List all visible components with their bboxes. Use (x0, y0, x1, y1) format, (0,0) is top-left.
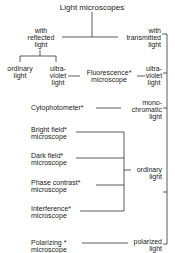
node-dark-field-microscope: Dark field* microscope (31, 152, 67, 166)
label-line: light (115, 41, 161, 48)
title: Light microscopes (52, 4, 132, 12)
node-bright-field-microscope: Bright field* microscope (31, 126, 67, 140)
label-line: reflected (24, 34, 58, 41)
label-line: ultra- (144, 65, 164, 72)
label-line: microscope (31, 159, 67, 166)
label-line: ultra- (48, 65, 68, 72)
label-line: microscope (31, 246, 67, 253)
node-phase-contrast-microscope: Phase contrast* microscope (31, 179, 80, 193)
label-line: light (120, 113, 162, 120)
node-monochromatic-light: mono- chromatic light (120, 99, 162, 120)
label-line: microscope (31, 186, 80, 193)
label-line: Interference* (31, 205, 71, 212)
label-line: Fluorescence* (80, 69, 138, 76)
label-line: Bright field* (31, 126, 67, 133)
label-line: light (144, 79, 164, 86)
label-line: violet (144, 72, 164, 79)
node-with-reflected-light: with reflected light (24, 27, 58, 48)
node-reflected-ordinary-light: ordinary light (2, 65, 38, 79)
node-polarized-light: polarized light (126, 238, 162, 252)
label-line: with (24, 27, 58, 34)
label-line: light (2, 72, 38, 79)
label-line: chromatic (120, 106, 162, 113)
label-line: light (126, 245, 162, 252)
node-interference-microscope: Interference* microscope (31, 205, 71, 219)
label-line: ordinary (2, 65, 38, 72)
label-line: light (24, 41, 58, 48)
label-line: microscope (31, 212, 71, 219)
node-polarizing-microscope: Polarizing * microscope (31, 239, 67, 253)
label-line: mono- (120, 99, 162, 106)
node-transmitted-ordinary-light: ordinary light (126, 166, 162, 180)
label-line: Polarizing * (31, 239, 67, 246)
node-reflected-ultraviolet-light: ultra- violet light (48, 65, 68, 86)
label-line: light (126, 173, 162, 180)
label-line: microscope (80, 76, 138, 83)
node-transmitted-ultraviolet-light: ultra- violet light (144, 65, 164, 86)
label-line: transmitted (115, 34, 161, 41)
label-line: light (48, 79, 68, 86)
label-line: Dark field* (31, 152, 67, 159)
label-line: violet (48, 72, 68, 79)
node-fluorescence-microscope: Fluorescence* microscope (80, 69, 138, 83)
label-line: Phase contrast* (31, 179, 80, 186)
label-line: polarized (126, 238, 162, 245)
node-cytophotometer: Cytophotometer* (31, 104, 84, 111)
label-line: microscope (31, 133, 67, 140)
label-line: ordinary (126, 166, 162, 173)
label-line: with (115, 27, 161, 34)
node-with-transmitted-light: with transmitted light (115, 27, 161, 48)
